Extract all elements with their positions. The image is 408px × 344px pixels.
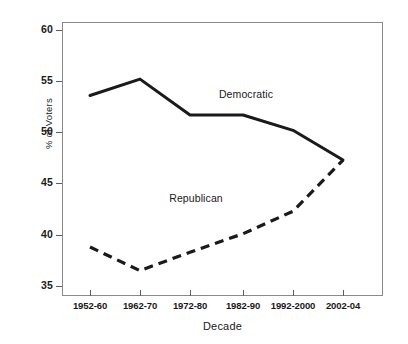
y-axis-tick-mark bbox=[56, 235, 62, 236]
y-axis-tick-mark bbox=[56, 132, 62, 133]
series-label-republican: Republican bbox=[146, 192, 246, 204]
y-axis-tick-label: 35 bbox=[41, 279, 53, 291]
y-axis-tick-label: 50 bbox=[41, 125, 53, 137]
y-axis-tick-mark bbox=[56, 286, 62, 287]
x-axis-tick-mark bbox=[90, 290, 91, 296]
plot-area bbox=[62, 22, 383, 296]
x-axis-tick-mark bbox=[293, 290, 294, 296]
chart-container: % of Voters 60 55 50 45 40 35 1952-60 19… bbox=[0, 0, 408, 344]
y-axis-tick-mark bbox=[56, 81, 62, 82]
y-axis-tick-mark bbox=[56, 30, 62, 31]
y-axis-tick-label: 55 bbox=[41, 74, 53, 86]
series-label-democratic: Democratic bbox=[196, 88, 296, 100]
y-axis-tick-label: 60 bbox=[41, 23, 53, 35]
x-axis-tick-mark bbox=[243, 290, 244, 296]
x-axis-tick-mark bbox=[140, 290, 141, 296]
x-axis-title: Decade bbox=[62, 320, 383, 332]
y-axis-tick-mark bbox=[56, 183, 62, 184]
x-axis-tick-mark bbox=[343, 290, 344, 296]
x-axis-tick-mark bbox=[190, 290, 191, 296]
y-axis-tick-label: 40 bbox=[41, 228, 53, 240]
x-axis-tick-label: 2002-04 bbox=[298, 300, 388, 311]
y-axis-tick-label: 45 bbox=[41, 176, 53, 188]
